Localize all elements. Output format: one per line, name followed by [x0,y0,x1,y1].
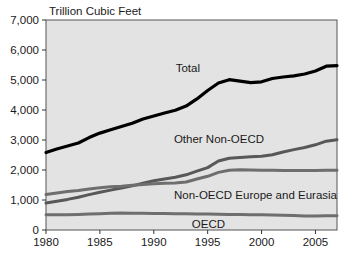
series-label-total: Total [176,62,200,74]
y-axis-tick-label: 7,000 [10,14,39,26]
y-axis-tick-label: 3,000 [10,134,39,146]
y-axis-tick-label: 4,000 [10,104,39,116]
y-axis-tick-label: 6,000 [10,44,39,56]
y-axis-title: Trillion Cubic Feet [49,5,142,17]
y-axis-tick-label: 5,000 [10,74,39,86]
y-axis-tick-label: 0 [33,224,39,236]
y-axis-ticks [42,20,46,230]
x-axis-tick-labels: 198019851990199520002005 [33,236,328,248]
x-axis-ticks [46,230,315,234]
series-label-oecd: OECD [192,218,225,230]
y-axis-tick-label: 2,000 [10,164,39,176]
y-axis-tick-label: 1,000 [10,194,39,206]
series-label-other-non-oecd: Other Non-OECD [174,133,264,145]
chart-figure: 01,0002,0003,0004,0005,0006,0007,000 198… [0,0,352,261]
y-axis-tick-labels: 01,0002,0003,0004,0005,0006,0007,000 [10,14,39,236]
x-axis-tick-label: 1995 [195,236,221,248]
x-axis-tick-label: 1980 [33,236,59,248]
series-label-non-oecd-europe-and-eurasia: Non-OECD Europe and Eurasia [174,189,338,201]
x-axis-tick-label: 1985 [87,236,113,248]
x-axis-tick-label: 2000 [249,236,275,248]
line-chart: 01,0002,0003,0004,0005,0006,0007,000 198… [0,0,352,261]
x-axis-tick-label: 1990 [141,236,167,248]
x-axis-tick-label: 2005 [303,236,329,248]
